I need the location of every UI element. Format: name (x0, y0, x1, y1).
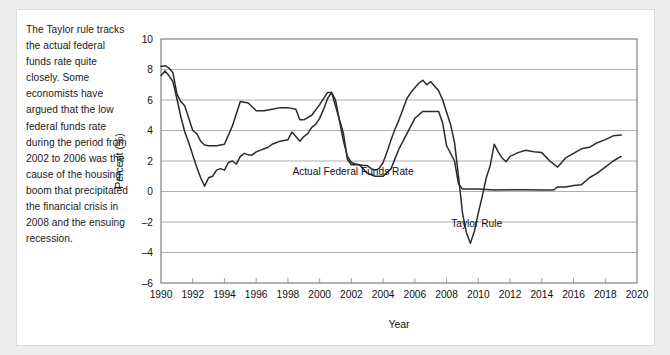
chart-plot-area: –6–4–20246810 19901992199419961998200020… (17, 10, 656, 347)
x-tick-label: 2006 (404, 289, 427, 300)
x-tick-label: 2004 (372, 289, 395, 300)
y-tick-label: –4 (142, 247, 154, 258)
x-tick-label: 2012 (499, 289, 522, 300)
y-tick-label: –6 (142, 278, 154, 289)
x-tick-label: 1998 (277, 289, 300, 300)
x-tick-label: 1990 (150, 289, 173, 300)
x-tick-label: 1996 (245, 289, 268, 300)
x-tick-label: 2002 (340, 289, 363, 300)
y-tick-label: 6 (147, 95, 153, 106)
x-tick-marks-group (193, 278, 606, 283)
x-tick-label: 2010 (467, 289, 490, 300)
x-tick-label: 2000 (308, 289, 331, 300)
x-axis-title: Year (388, 318, 410, 330)
x-tick-label: 2020 (626, 289, 649, 300)
series-annotation-actual-federal-funds-rate: Actual Federal Funds Rate (292, 166, 414, 177)
line-chart: –6–4–20246810 19901992199419961998200020… (17, 10, 656, 347)
series-lines-group (161, 66, 621, 244)
y-tick-label: 2 (147, 156, 153, 167)
y-tick-label: –2 (142, 217, 154, 228)
x-tick-label: 1994 (213, 289, 236, 300)
x-tick-label: 2008 (435, 289, 458, 300)
x-tick-label: 1992 (181, 289, 204, 300)
series-annotation-taylor-rule: Taylor Rule (451, 218, 502, 229)
y-tick-labels-group: –6–4–20246810 (142, 34, 154, 289)
y-tick-label: 4 (147, 125, 153, 136)
x-tick-label: 2014 (530, 289, 553, 300)
figure-panel: The Taylor rule tracks the actual federa… (16, 9, 655, 346)
y-tick-label: 0 (147, 186, 153, 197)
x-tick-label: 2016 (562, 289, 585, 300)
series-line-taylor-rule (161, 71, 621, 243)
y-tick-label: 10 (142, 34, 154, 45)
y-tick-label: 8 (147, 64, 153, 75)
x-tick-labels-group: 1990199219941996199820002002200420062008… (150, 289, 649, 300)
series-annotations-group: Actual Federal Funds RateTaylor Rule (292, 166, 502, 229)
y-axis-title: Percent (%) (113, 133, 125, 188)
x-tick-label: 2018 (594, 289, 617, 300)
